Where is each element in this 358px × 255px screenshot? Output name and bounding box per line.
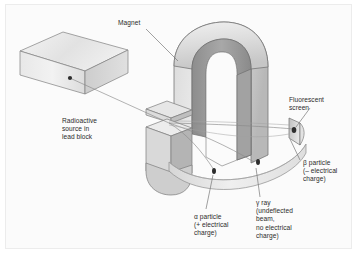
fluorescent-screen-label: Fluorescent screen <box>289 96 324 112</box>
beta-particle-label: β particle (– electrical charge) <box>303 159 337 184</box>
figure-frame: Magnet Radioactive source in lead block … <box>5 4 352 249</box>
lead-block <box>20 32 128 94</box>
beta-impact-spot <box>292 127 297 133</box>
alpha-impact-spot <box>212 168 216 174</box>
leader-magnet <box>146 29 178 61</box>
magnet-pole-lower <box>146 119 192 195</box>
diagram-canvas <box>6 5 352 249</box>
gamma-ray-label: γ ray (undeflected beam, no electrical c… <box>256 199 293 240</box>
magnet-label: Magnet <box>118 19 140 27</box>
alpha-particle-label: α particle (+ electrical charge) <box>194 213 229 238</box>
radioactive-source-dot <box>68 76 72 80</box>
gamma-impact-spot <box>256 159 260 165</box>
horseshoe-magnet <box>146 22 268 195</box>
radioactive-source-label: Radioactive source in lead block <box>62 117 97 142</box>
figure-root: Magnet Radioactive source in lead block … <box>0 0 358 255</box>
